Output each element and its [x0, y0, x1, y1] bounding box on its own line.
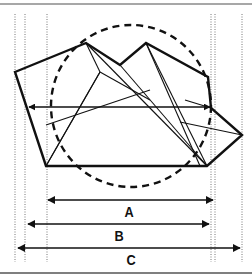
- measurement-label-a: A: [124, 204, 133, 219]
- outer-polygon: [15, 43, 242, 166]
- measurement-label-c: C: [126, 252, 135, 267]
- fold-line: [86, 43, 207, 166]
- dashed-circle: [51, 25, 211, 187]
- fold-line: [46, 72, 100, 166]
- measurement-label-b: B: [114, 228, 123, 243]
- fold-line: [100, 72, 150, 100]
- fold-line: [120, 65, 207, 166]
- measurement-diagram: [0, 0, 252, 279]
- fold-line: [180, 122, 242, 135]
- inner-fold-lines: [46, 43, 242, 166]
